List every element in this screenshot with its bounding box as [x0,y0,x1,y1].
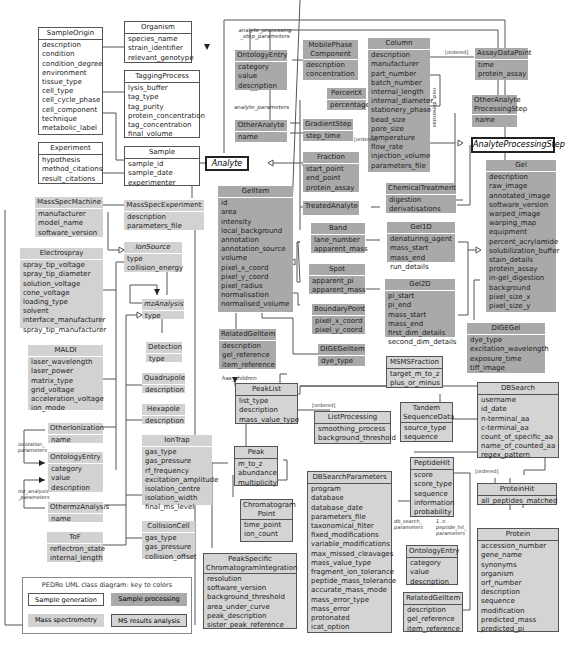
attr: variable_modifications [311,540,388,549]
class-peak-list[interactable]: PeakList list_type description mass_valu… [235,383,298,424]
class-column[interactable]: Column description manufacturer part_num… [368,38,430,172]
attr: name [238,133,284,142]
class-gel-item[interactable]: GelItem id area intensity local_backgrou… [218,186,293,312]
class-mass-spec-experiment[interactable]: MassSpecExperiment description parameter… [124,200,204,230]
attr: acceleration_voltage [31,395,100,404]
color-legend: PEDRo UML class diagram: key to colors S… [22,577,192,634]
class-band[interactable]: Band lane_number apparent_mass [311,223,365,253]
class-gel2d[interactable]: Gel2D pi_start pi_end mass_start mass_en… [385,279,455,337]
class-title: RelatedGelItem [219,329,276,341]
class-gel[interactable]: Gel description raw_image annotated_imag… [486,160,556,312]
class-gel1d[interactable]: Gel1D denaturing_agent mass_start mass_e… [387,222,455,262]
attr: dye_type [321,357,362,366]
attr: lane_number [314,236,362,245]
class-dige-gel[interactable]: DIGEGel dye_type excitation_wavelength e… [467,323,545,373]
attr: ion_count [244,530,289,539]
class-sample-origin[interactable]: SampleOrigin description condition condi… [38,27,103,135]
class-title: Electrospray [20,248,103,260]
class-other-mz-analysis[interactable]: OthermzAnalysis name [48,502,103,522]
class-fraction[interactable]: Fraction start_point end_point protein_a… [303,152,359,192]
class-organism[interactable]: Organism species_name strain_identifier … [124,21,192,63]
class-other-ionization[interactable]: OtherIonization name [48,423,103,443]
class-peptide-hit[interactable]: PeptideHit score score_type sequence inf… [410,457,454,517]
class-collision-cell[interactable]: CollisionCell gas_type gas_pressure coll… [142,521,195,559]
class-title: Protein [478,529,558,541]
class-peak-specific-chromatogram-integration[interactable]: PeakSpecific ChromatogramIntegration res… [203,553,297,629]
class-related-gel-item-top[interactable]: RelatedGelItem description gel_reference… [219,329,276,369]
attr: tag_purity [128,103,196,112]
attr: plus_or_minus [390,379,439,388]
class-related-gel-item-res[interactable]: RelatedGelItem description gel_reference… [403,592,463,632]
attr: type [127,255,179,264]
class-ontology-entry-top[interactable]: OntologyEntry category value description [235,50,287,90]
attr: final_volume [128,130,196,139]
attr: matrix_type [31,377,100,386]
attr: cone_voltage [23,289,100,298]
class-tandem-sequence-data[interactable]: Tandem SequenceData source_type sequence [400,402,453,442]
class-tof[interactable]: ToF reflectron_state internal_length [47,532,103,562]
class-analyte-processing-step[interactable]: AnalyteProcessingStep [471,137,555,153]
label-ionization-parameters: ionization_ parameters [18,441,48,453]
attr: gas_pressure [145,543,192,552]
class-chromatogram-point[interactable]: Chromatogram Point time_point ion_count [240,499,293,542]
class-chemical-treatment[interactable]: ChemicalTreatment digestion derivatisati… [386,183,456,213]
class-list-processing[interactable]: ListProcessing smoothing_process backgro… [314,411,391,444]
class-db-search-parameters[interactable]: DBSearchParameters program database data… [307,471,392,633]
class-dige-gel-item[interactable]: DIGEGelItem dye_type [318,344,365,366]
class-gradient-step[interactable]: GradientStep step_time [303,119,353,141]
attr: relevant_genotype [128,54,188,63]
class-ontology-entry-ms[interactable]: OntologyEntry category value description [48,452,103,492]
label-ordered-assay: [ordered] [445,49,468,55]
class-protein-hit[interactable]: ProteinHit all_peptides_matched [477,483,557,505]
attr: rf_frequency [145,467,209,476]
attr: protein_assay [478,70,525,79]
attr: pixel_y_coord [221,273,290,282]
class-peak[interactable]: Peak m_to_z abundance multiplicity [234,446,278,486]
class-boundary-point[interactable]: BoundaryPoint pixel_x_coord pixel_y_coor… [312,304,365,334]
attr: laser_power [31,367,100,376]
attr: lysis_buffer [128,84,196,93]
attr: accession_number [481,542,555,551]
attr: isolation_width [145,494,209,503]
attr: c-terminal_aa [481,424,555,433]
attr: value [410,568,454,577]
attr: temperature [371,134,427,143]
attr: software_version [489,201,553,210]
class-msms-fraction[interactable]: MSMSFraction target_m_to_z plus_or_minus [386,356,443,388]
class-ion-trap[interactable]: IonTrap gas_type gas_pressure rf_frequen… [142,435,212,505]
attr: apparent_mass [312,286,362,295]
class-treated-analyte[interactable]: TreatedAnalyte [303,201,359,215]
attr: orf_number [481,579,555,588]
attr: solvent [23,307,100,316]
attr: icat_option [311,623,388,632]
attr: target_m_to_z [390,370,439,379]
class-ion-source[interactable]: IonSource type collision_energy [124,242,182,272]
class-other-analyte[interactable]: OtherAnalyte name [235,120,287,142]
class-mass-spec-machine[interactable]: MassSpecMachine manufacturer model_name … [35,197,103,237]
class-hexapole[interactable]: Hexapole description [142,404,185,424]
class-tagging-process[interactable]: TaggingProcess lysis_buffer tag_type tag… [124,70,200,138]
attr: mass_value_type [311,559,388,568]
class-ontology-entry-res[interactable]: OntologyEntry category value description [406,545,458,585]
label-ordered-gradient: [ordered] [354,136,377,142]
legend-mass-spectrometry: Mass spectrometry [28,614,104,627]
class-mobile-phase-component[interactable]: MobilePhase Component description concen… [303,40,358,80]
class-quadrupole[interactable]: Quadrupole description [142,373,185,393]
class-title: OtherAnalyte ProcessingStep [472,95,517,115]
class-assay-data-point[interactable]: AssayDataPoint time protein_assay [475,48,528,80]
class-db-search[interactable]: DBSearch username id_date n-terminal_aa … [477,382,559,458]
attr: id [221,199,290,208]
class-maldi[interactable]: MALDI laser_wavelength laser_power matri… [28,345,103,410]
class-percent-x[interactable]: PercentX percentage [327,88,366,110]
class-mz-analysis[interactable]: mzAnalysis type [142,299,184,319]
attr: spray_tip_manufacturer [23,326,100,335]
class-protein[interactable]: Protein accession_number gene_name synon… [477,528,559,632]
class-other-analyte-processing-step[interactable]: OtherAnalyte ProcessingStep name [472,95,517,127]
attr: mass_error [311,605,388,614]
class-electrospray[interactable]: Electrospray spray_tip_voltage spray_tip… [20,248,103,328]
class-experiment[interactable]: Experiment hypothesis method_citations r… [38,142,103,184]
class-detection[interactable]: Detection type [146,342,182,362]
class-sample[interactable]: Sample sample_id sample_date experimente… [124,146,200,186]
class-analyte[interactable]: Analyte [205,156,249,171]
class-spot[interactable]: Spot apparent_pi apparent_mass [309,264,365,294]
